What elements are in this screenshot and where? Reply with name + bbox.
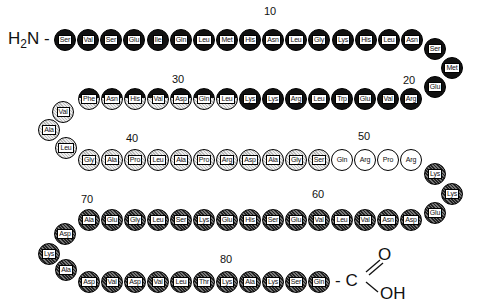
residue-label: Gln [312,277,326,287]
residue-label: Trp [335,94,349,104]
residue-label: Val [359,215,372,225]
residue-2: Val [77,29,99,51]
residue-label: Asp [242,155,257,165]
residue-label: His [359,35,373,45]
residue-label: Lys [445,189,459,199]
residue-label: Lys [243,94,257,104]
residue-label: His [128,94,142,104]
residue-77: Val [147,271,169,293]
n-terminus-label: H2N - [8,29,50,51]
residue-55: Glu [424,202,446,224]
residue-68: Gly [124,209,146,231]
residue-39: Ala [101,149,123,171]
residue-36: Ala [38,119,60,141]
residue-label: Lys [428,169,442,179]
residue-label: Glu [428,208,442,218]
residue-78: Leu [170,271,192,293]
residue-26: Lys [262,88,284,110]
residue-label: Asn [104,94,119,104]
residue-label: Lys [336,35,350,45]
position-number: 40 [126,132,138,144]
residue-label: Ile [153,35,164,45]
c-terminus-carbon: - C [335,271,358,291]
residue-label: Gln [197,94,211,104]
residue-51: Pro [377,149,399,171]
residue-label: Gly [312,35,326,45]
residue-label: Lys [42,249,56,259]
position-number: 50 [358,130,370,142]
position-number: 80 [220,253,232,265]
residue-label: Thr [197,277,211,287]
residue-label: Met [444,63,459,73]
residue-label: Lys [197,215,211,225]
residue-label: Glu [428,82,442,92]
residue-49: Gln [331,149,353,171]
position-number: 20 [403,74,415,86]
residue-54: Lys [441,183,463,205]
residue-10: Asn [262,29,284,51]
residue-label: Leu [334,215,349,225]
residue-label: Leu [288,35,303,45]
residue-20: Arg [400,88,422,110]
residue-17: Ser [424,38,446,60]
residue-28: Leu [216,88,238,110]
residue-76: Asp [124,271,146,293]
residue-72: Lys [38,243,60,265]
residue-35: Val [52,101,74,123]
residue-9: His [239,29,261,51]
residue-label: His [243,35,257,45]
residue-label: Ala [59,265,73,275]
residue-label: Gln [336,156,348,164]
residue-8: Met [216,29,238,51]
residue-63: His [239,209,261,231]
residue-47: Gly [285,149,307,171]
residue-25: Arg [285,88,307,110]
residue-13: Lys [332,29,354,51]
residue-75: Val [101,271,123,293]
residue-4: Glu [123,29,145,51]
residue-71: Asp [54,223,76,245]
residue-label: His [243,215,257,225]
residue-60: Val [308,209,330,231]
residue-57: Asn [377,209,399,231]
residue-46: Ala [262,149,284,171]
residue-label: Val [382,94,395,104]
residue-74: Asp [78,271,100,293]
residue-80: Lys [216,271,238,293]
residue-label: Met [219,35,234,45]
residue-label: Leu [58,143,73,153]
residue-label: Asp [57,229,72,239]
residue-38: Gly [78,149,100,171]
residue-label: Arg [359,156,371,164]
residue-label: Val [57,107,70,117]
residue-label: Ser [266,215,280,225]
residue-label: Leu [150,155,165,165]
position-number: 70 [81,193,93,205]
residue-label: Leu [219,94,234,104]
residue-21: Val [377,88,399,110]
residue-5: Ile [147,29,169,51]
residue-56: Asp [400,209,422,231]
residue-7: Leu [193,29,215,51]
residue-label: Asp [403,215,418,225]
residue-65: Lys [193,209,215,231]
residue-label: Ala [105,155,119,165]
residue-label: Ala [243,277,257,287]
residue-label: Asp [127,277,142,287]
residue-label: Lys [266,277,280,287]
residue-label: Gln [174,35,188,45]
residue-42: Ala [170,149,192,171]
residue-label: Glu [127,35,141,45]
residue-label: Leu [311,94,326,104]
residue-label: Glu [220,215,234,225]
residue-40: Pro [124,149,146,171]
residue-label: Pro [382,156,394,164]
residue-29: Gln [193,88,215,110]
residue-label: Glu [358,94,372,104]
residue-label: Val [82,35,95,45]
hydroxyl-group: OH [380,284,406,304]
residue-label: Asp [81,277,96,287]
residue-82: Lys [262,271,284,293]
residue-84: Gln [308,271,330,293]
residue-label: Phe [81,94,97,104]
